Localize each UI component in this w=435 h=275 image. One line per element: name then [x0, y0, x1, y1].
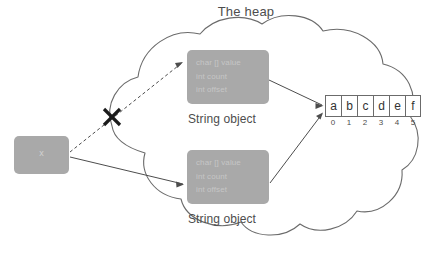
char-array-index: 3: [373, 118, 389, 127]
string-object-caption-2: String object: [188, 212, 256, 226]
heap-title: The heap: [196, 4, 296, 19]
field-int-count: int count: [196, 70, 260, 84]
char-array-cell: c: [357, 95, 373, 117]
char-array-index: 4: [389, 118, 405, 127]
char-array-cell: f: [405, 95, 421, 117]
field-char-array-value: char [] value: [196, 156, 260, 170]
char-array-index: 1: [341, 118, 357, 127]
char-array-cell: a: [325, 95, 341, 117]
char-array-index: 2: [357, 118, 373, 127]
heap-diagram: The heap char [] value int count int off…: [0, 0, 435, 275]
dashed-reference-arrow: [70, 62, 183, 152]
field-int-offset: int offset: [196, 183, 260, 197]
char-array-index: 5: [405, 118, 421, 127]
solid-reference-arrowhead: [176, 182, 184, 188]
lower-value-arrowhead: [316, 113, 323, 120]
stack-variable-label: x: [14, 148, 69, 158]
char-array-index: 0: [325, 118, 341, 127]
lower-value-arrow: [270, 114, 322, 183]
string-object-box-1[interactable]: char [] value int count int offset: [187, 50, 269, 104]
crossed-out-x-icon: [104, 109, 120, 125]
string-object-box-2[interactable]: char [] value int count int offset: [187, 150, 269, 204]
char-array-cell: d: [373, 95, 389, 117]
field-int-offset: int offset: [196, 83, 260, 97]
char-array-cell: e: [389, 95, 405, 117]
string-object-caption-1: String object: [188, 112, 256, 126]
stack-variable-box[interactable]: x: [14, 136, 69, 174]
field-int-count: int count: [196, 170, 260, 184]
upper-value-arrow: [269, 80, 322, 105]
char-array-index-row: 0 1 2 3 4 5: [325, 118, 421, 127]
field-char-array-value: char [] value: [196, 56, 260, 70]
char-array-cell: b: [341, 95, 357, 117]
char-array: a b c d e f: [325, 95, 421, 117]
solid-reference-arrow: [70, 157, 183, 184]
